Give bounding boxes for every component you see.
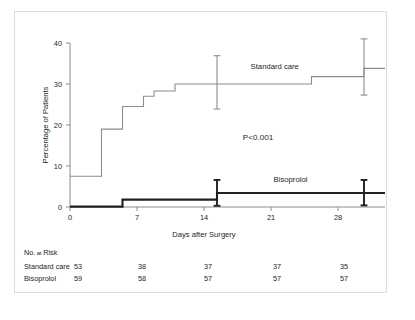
risk-row-label-standard-care: Standard care	[24, 262, 70, 271]
risk-value: 59	[74, 274, 82, 283]
risk-value: 57	[273, 274, 281, 283]
bisoprolol-curve	[70, 193, 385, 207]
y-tick-label: 20	[54, 121, 62, 130]
risk-row-standard-care: 53 38 37 37 35	[74, 262, 348, 271]
survival-curve-chart: 0 10 20 30 40 0 7 14 21 28 Days after Su…	[0, 0, 415, 320]
x-tick-label: 14	[200, 213, 208, 222]
y-tick-label: 10	[54, 162, 62, 171]
p-value-annotation: P<0.001	[243, 133, 274, 142]
y-tick-label: 40	[54, 39, 62, 48]
risk-value: 38	[138, 262, 146, 271]
standard-care-curve	[70, 68, 385, 176]
standard-care-label: Standard care	[251, 62, 299, 71]
x-tick-label: 21	[267, 213, 275, 222]
y-tick-label: 0	[58, 203, 62, 212]
y-axis-tick-labels: 0 10 20 30 40	[54, 39, 62, 212]
x-tick-label: 7	[135, 213, 139, 222]
risk-value: 57	[204, 274, 212, 283]
x-axis-tick-labels: 0 7 14 21 28	[68, 213, 342, 222]
y-axis-ticks	[66, 43, 70, 207]
y-tick-label: 30	[54, 80, 62, 89]
risk-value: 53	[74, 262, 82, 271]
x-axis-title: Days after Surgery	[172, 230, 236, 239]
risk-value: 35	[340, 262, 348, 271]
risk-row-label-bisoprolol: Bisoprolol	[24, 274, 56, 283]
risk-table-title: No.atRisk	[24, 248, 58, 257]
chart-container: 0 10 20 30 40 0 7 14 21 28 Days after Su…	[0, 0, 415, 320]
risk-value: 37	[273, 262, 281, 271]
x-tick-label: 0	[68, 213, 72, 222]
y-axis-title: Percentage of Patients	[41, 86, 50, 163]
bisoprolol-label: Bisoprolol	[274, 175, 308, 184]
risk-value: 37	[204, 262, 212, 271]
x-tick-label: 28	[334, 213, 342, 222]
risk-value: 58	[138, 274, 146, 283]
risk-row-bisoprolol: 59 58 57 57 57	[74, 274, 348, 283]
standard-care-error-bars	[214, 39, 368, 109]
risk-value: 57	[340, 274, 348, 283]
